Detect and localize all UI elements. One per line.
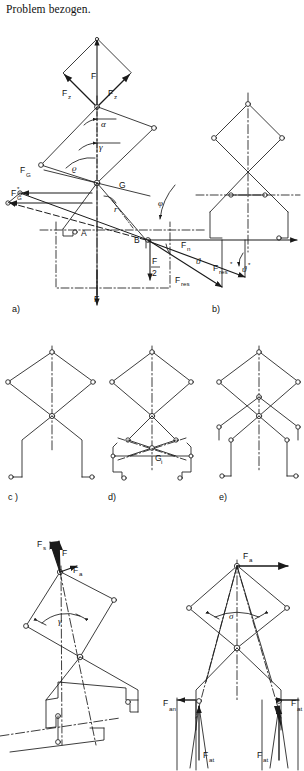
label-force-Fat-left: F	[203, 750, 208, 760]
label-force-Fa-g: F	[243, 551, 248, 561]
frame-left-d	[113, 443, 122, 478]
joint-right-mid	[152, 126, 157, 131]
joint-left-f	[24, 624, 29, 629]
leg-right-lower-g	[237, 648, 281, 730]
label-force-Fn-sub: n	[187, 245, 191, 252]
joint-foot-right-g	[277, 699, 282, 704]
linkage-rhombus-e	[219, 352, 298, 416]
joint-top-c	[50, 350, 55, 355]
joint-foot-left-c	[9, 475, 13, 479]
label-angle-theta-star: ϑ	[242, 264, 247, 274]
leg-left-b	[210, 172, 248, 212]
extension-left	[44, 170, 97, 183]
panel-g-drawing	[177, 560, 299, 770]
leg-right-c	[52, 416, 82, 477]
panel-d-drawing	[110, 346, 194, 480]
joint-left-e	[217, 380, 222, 385]
panel-label-b: b)	[212, 304, 220, 314]
arm-cross-left-e	[219, 397, 259, 427]
leg-left-e	[231, 416, 259, 476]
joint-foot-left-d	[122, 476, 126, 480]
leg-right-e	[259, 416, 287, 476]
joint-knee-left-e	[229, 438, 233, 442]
joint-foot-right-d	[178, 476, 182, 480]
label-force-Fan: F	[163, 698, 168, 708]
foot-bracket-left-f	[46, 718, 56, 728]
label-force-Fz-left-sub: z	[68, 93, 71, 100]
panel-label-a: a)	[12, 304, 20, 314]
label-F-half-denominator: 2	[152, 268, 157, 278]
joint-left-c	[6, 380, 11, 385]
leg-right-b	[248, 172, 288, 212]
joint-A	[73, 230, 77, 234]
leg-left-c	[22, 416, 52, 477]
joint-right-b	[280, 136, 285, 141]
force-wedge-f	[50, 541, 60, 572]
linkage-rhombus-d	[112, 352, 191, 416]
angle-arc-alpha	[84, 119, 97, 125]
label-force-Fat-right: F	[257, 750, 262, 760]
panel-label-e: e)	[219, 492, 227, 502]
joint-right-g	[285, 606, 290, 611]
panel-label-c: c )	[8, 492, 18, 502]
linkage-rhombus-f	[26, 572, 114, 657]
label-force-Fz-left: F	[62, 88, 67, 98]
angle-tick-right-f	[76, 614, 84, 618]
joint-bar-left-d	[111, 454, 115, 458]
joint-right-c	[91, 380, 96, 385]
leg-lower-right	[97, 183, 146, 240]
joint-base-f	[56, 740, 61, 745]
panel-f-drawing	[0, 541, 138, 752]
angle-tick-left-g	[210, 614, 219, 619]
label-angle-theta: ϑ	[196, 256, 201, 266]
centerline-vertical-f	[61, 566, 62, 745]
arm-left-d	[128, 416, 152, 440]
label-force-F-half: F 2	[151, 256, 160, 278]
angle-tick-right-g	[255, 614, 264, 619]
label-force-F-bottom: F	[94, 294, 99, 304]
joint-drop-right-e	[296, 425, 300, 429]
label-radius-r: r	[114, 204, 118, 214]
joint-foot-right-c	[90, 475, 94, 479]
angle-arc-gamma	[79, 143, 97, 150]
label-force-FG-star: F	[11, 188, 16, 198]
joint-left-g	[187, 606, 192, 611]
panel-label-d: d)	[108, 492, 116, 502]
joint-left-b	[212, 136, 217, 141]
label-force-Fs-sub: s	[43, 544, 46, 551]
joint-foot-right-f	[126, 700, 131, 705]
label-force-Fres-star-sup: *	[230, 260, 233, 267]
panel-e-drawing	[217, 346, 301, 478]
foot-left-b	[210, 212, 222, 238]
label-point-Gi-sub: i	[161, 458, 162, 465]
arm-cross-right-e	[259, 397, 298, 427]
label-angle-rho: ϱ	[72, 163, 77, 173]
label-force-Fan-sub: an	[169, 705, 176, 712]
angle-tick-left-f	[38, 621, 46, 625]
label-point-B: B	[134, 235, 140, 245]
joint-right-d	[189, 380, 194, 385]
linkage-rhombus-g	[189, 566, 287, 648]
label-angle-alpha: α	[101, 119, 106, 129]
foot-right-b	[277, 212, 288, 238]
joint-bar-right-d	[189, 454, 193, 458]
label-force-Fres-sub: res	[181, 280, 190, 287]
technical-figure: F F z F z F G F G * α γ ϱ φ A B G r F 2 …	[0, 0, 304, 771]
label-force-F-f: F	[62, 548, 67, 558]
joint-left-mid	[39, 163, 44, 168]
label-angle-gamma-f: γ	[58, 616, 62, 626]
joint-top-d	[150, 350, 155, 355]
angle-arc-rho	[66, 158, 95, 168]
panel-c-drawing	[6, 346, 96, 479]
label-force-Fz-right-sub: z	[114, 93, 117, 100]
figure-page: Problem bezogen.	[0, 0, 304, 771]
label-angle-gamma: γ	[99, 142, 103, 152]
joint-foot-left-e	[220, 474, 224, 478]
label-force-Fa-f-sub: a	[79, 570, 83, 577]
label-point-A: A	[81, 228, 87, 238]
label-force-Fat-right-sub: at	[263, 756, 268, 763]
platform-f	[46, 682, 138, 700]
linkage-rhombus-c	[8, 352, 93, 416]
ground-reference-f	[0, 718, 120, 736]
label-force-Fa-g-sub: a	[249, 556, 253, 563]
